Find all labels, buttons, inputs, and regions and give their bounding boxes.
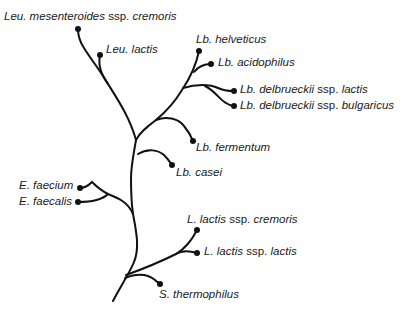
taxon-label-leu-lactis: Leu. lactis <box>106 44 158 56</box>
taxon-label-s-thermophilus: S. thermophilus <box>159 289 239 301</box>
tree-branches <box>78 29 234 301</box>
taxon-label-lb-helveticus: Lb. helveticus <box>196 34 266 46</box>
taxon-name-italic: cremoris <box>133 10 177 22</box>
taxon-name-italic: L. lactis <box>204 245 243 257</box>
leaf-node-dot <box>75 199 81 205</box>
taxon-label-e-faecalis: E. faecalis <box>19 196 72 208</box>
taxon-label-l-lactis-lactis: L. lactis ssp. lactis <box>204 246 297 258</box>
taxon-name-italic: Lb. helveticus <box>196 33 266 45</box>
taxon-name-italic: L. lactis <box>187 213 226 225</box>
taxon-rank-text: ssp. <box>314 99 341 111</box>
taxon-label-lb-casei: Lb. casei <box>176 167 222 179</box>
leaf-node-dot <box>77 185 83 191</box>
taxon-name-italic: cremoris <box>253 213 297 225</box>
leaf-node-dot <box>194 227 200 233</box>
leaf-node-dot <box>231 103 237 109</box>
tree-branch <box>125 275 160 284</box>
tree-branch <box>176 251 197 254</box>
taxon-label-leu-mesenteroides: Leu. mesenteroides ssp. cremoris <box>4 11 177 23</box>
leaf-node-dot <box>194 250 200 256</box>
taxon-label-lb-delbrueckii-lactis: Lb. delbrueckii ssp. lactis <box>240 84 368 96</box>
tree-branch <box>113 140 137 301</box>
taxon-name-italic: Lb. delbrueckii <box>240 83 314 95</box>
tree-branch <box>156 118 193 141</box>
taxon-name-italic: bulgaricus <box>342 99 394 111</box>
tree-branch <box>80 182 133 214</box>
taxon-label-lb-delbrueckii-bulgaricus: Lb. delbrueckii ssp. bulgaricus <box>240 100 394 112</box>
leaf-node-dot <box>231 88 237 94</box>
taxon-rank-text: ssp. <box>314 83 341 95</box>
taxon-name-italic: S. thermophilus <box>159 288 239 300</box>
taxon-label-e-faecium: E. faecium <box>19 180 73 192</box>
tree-branch <box>138 150 172 165</box>
leaf-node-dot <box>169 162 175 168</box>
taxon-name-italic: Lb. fermentum <box>196 141 270 153</box>
taxon-rank-text: ssp. <box>105 10 132 22</box>
taxon-name-italic: Leu. lactis <box>106 43 158 55</box>
taxon-name-italic: lactis <box>342 83 368 95</box>
leaf-node-dot <box>157 281 163 287</box>
leaf-node-dot <box>75 26 81 32</box>
taxon-label-lb-fermentum: Lb. fermentum <box>196 142 270 154</box>
leaf-node-dot <box>196 48 202 54</box>
taxon-name-italic: E. faecium <box>19 179 73 191</box>
taxon-name-italic: Lb. delbrueckii <box>240 99 314 111</box>
leaf-node-dot <box>208 61 214 67</box>
taxon-rank-text: ssp. <box>243 245 270 257</box>
taxon-name-italic: lactis <box>270 245 296 257</box>
leaf-node-dot <box>97 52 103 58</box>
taxon-label-lb-acidophilus: Lb. acidophilus <box>218 57 295 69</box>
taxon-label-l-lactis-cremoris: L. lactis ssp. cremoris <box>187 214 298 226</box>
taxon-name-italic: Leu. mesenteroides <box>4 10 105 22</box>
tree-branch <box>136 51 199 140</box>
tree-branch <box>78 194 108 202</box>
taxon-name-italic: Lb. casei <box>176 166 222 178</box>
tree-branch <box>99 55 108 84</box>
phylogenetic-tree <box>0 0 414 315</box>
taxon-name-italic: Lb. acidophilus <box>218 56 295 68</box>
taxon-name-italic: E. faecalis <box>19 195 72 207</box>
taxon-rank-text: ssp. <box>226 213 253 225</box>
